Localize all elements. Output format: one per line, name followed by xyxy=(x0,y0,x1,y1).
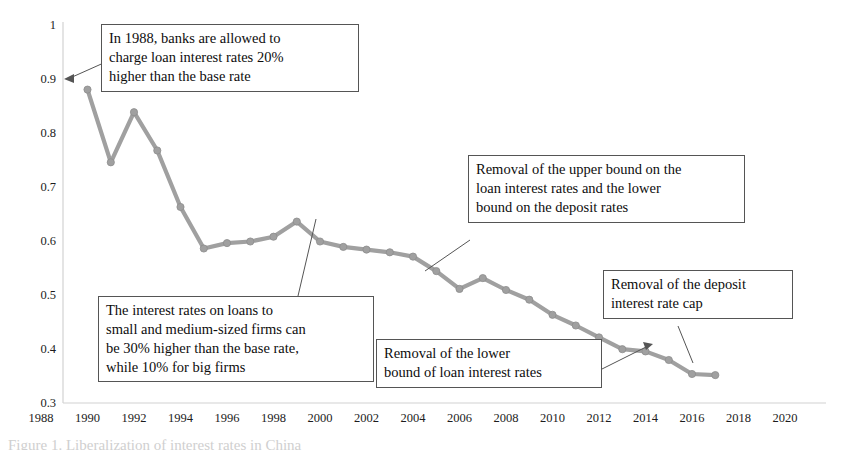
data-point-2015 xyxy=(665,356,672,363)
annotation-3-line-2: loan interest rates and the lower xyxy=(476,179,738,198)
data-point-1991 xyxy=(107,159,114,166)
x-tick-2006: 2006 xyxy=(435,411,485,426)
annotation-1-line-3: higher than the base rate xyxy=(109,67,352,86)
data-point-2011 xyxy=(572,322,579,329)
x-tick-2004: 2004 xyxy=(388,411,438,426)
x-tick-1990: 1990 xyxy=(63,411,113,426)
data-point-2001 xyxy=(340,243,347,250)
x-tick-2020: 2020 xyxy=(760,411,810,426)
data-point-1997 xyxy=(247,238,254,245)
y-tick-0-6: 0.6 xyxy=(16,234,56,249)
data-point-1992 xyxy=(130,109,137,116)
annotation-1988-loan-rate-markup: In 1988, banks are allowed to charge loa… xyxy=(101,24,359,92)
data-point-2000 xyxy=(316,238,323,245)
x-tick-1992: 1992 xyxy=(109,411,159,426)
data-point-1999 xyxy=(293,218,300,225)
y-tick-0-7: 0.7 xyxy=(16,180,56,195)
x-tick-2008: 2008 xyxy=(481,411,531,426)
data-point-2002 xyxy=(363,246,370,253)
data-point-2005 xyxy=(433,268,440,275)
annotation-1-line-1: In 1988, banks are allowed to xyxy=(109,29,352,48)
annotation-5-line-2: interest rate cap xyxy=(611,294,786,313)
x-tick-2002: 2002 xyxy=(342,411,392,426)
annotation-removal-upper-bound: Removal of the upper bound on the loan i… xyxy=(468,155,745,223)
data-point-2017 xyxy=(712,372,719,379)
data-point-2010 xyxy=(549,311,556,318)
x-tick-2014: 2014 xyxy=(621,411,671,426)
y-tick-1: 1 xyxy=(16,18,56,33)
annotation-3-line-1: Removal of the upper bound on the xyxy=(476,160,738,179)
annotation-2-line-1: The interest rates on loans to xyxy=(106,301,367,320)
data-point-2004 xyxy=(409,253,416,260)
x-tick-1998: 1998 xyxy=(249,411,299,426)
y-tick-0-8: 0.8 xyxy=(16,126,56,141)
data-point-2003 xyxy=(386,249,393,256)
data-point-2016 xyxy=(688,370,695,377)
y-tick-0-9: 0.9 xyxy=(16,72,56,87)
figure-caption: Figure 1. Liberalization of interest rat… xyxy=(0,437,841,450)
annotation-removal-lower-bound: Removal of the lower bound of loan inter… xyxy=(376,339,602,388)
x-tick-2010: 2010 xyxy=(528,411,578,426)
annotation-2-line-4: while 10% for big firms xyxy=(106,358,367,377)
y-tick-0-3: 0.3 xyxy=(16,396,56,411)
data-point-1993 xyxy=(154,147,161,154)
annotation-3-line-3: bound on the deposit rates xyxy=(476,198,738,217)
data-point-2009 xyxy=(526,296,533,303)
x-tick-2016: 2016 xyxy=(667,411,717,426)
data-point-1994 xyxy=(177,203,184,210)
annotation-4-line-2: bound of loan interest rates xyxy=(384,363,595,382)
x-tick-2000: 2000 xyxy=(295,411,345,426)
data-point-1996 xyxy=(223,240,230,247)
x-tick-1988: 1988 xyxy=(16,411,66,426)
y-tick-0-4: 0.4 xyxy=(16,342,56,357)
x-tick-1996: 1996 xyxy=(202,411,252,426)
annotation-5-line-1: Removal of the deposit xyxy=(611,275,786,294)
annotation-2-line-3: be 30% higher than the base rate, xyxy=(106,339,367,358)
x-tick-2018: 2018 xyxy=(714,411,764,426)
interest-rate-liberalization-chart: 1 0.9 0.8 0.7 0.6 0.5 0.4 0.3 1988199019… xyxy=(0,0,841,450)
leader-arrowhead-1 xyxy=(64,74,74,83)
data-point-1998 xyxy=(270,233,277,240)
data-point-2006 xyxy=(456,285,463,292)
leader-line-5 xyxy=(678,326,693,363)
x-tick-2012: 2012 xyxy=(574,411,624,426)
annotation-sme-loan-rate-markup: The interest rates on loans to small and… xyxy=(98,296,374,382)
leader-line-3 xyxy=(425,240,470,271)
y-tick-0-5: 0.5 xyxy=(16,288,56,303)
data-point-2008 xyxy=(502,286,509,293)
annotation-4-line-1: Removal of the lower xyxy=(384,344,595,363)
annotation-2-line-2: small and medium-sized firms can xyxy=(106,320,367,339)
annotation-1-line-2: charge loan interest rates 20% xyxy=(109,48,352,67)
annotation-removal-deposit-cap: Removal of the deposit interest rate cap xyxy=(603,270,793,319)
data-point-1990 xyxy=(84,86,91,93)
data-point-2013 xyxy=(619,346,626,353)
data-point-2007 xyxy=(479,275,486,282)
data-point-1995 xyxy=(200,245,207,252)
x-tick-1994: 1994 xyxy=(156,411,206,426)
